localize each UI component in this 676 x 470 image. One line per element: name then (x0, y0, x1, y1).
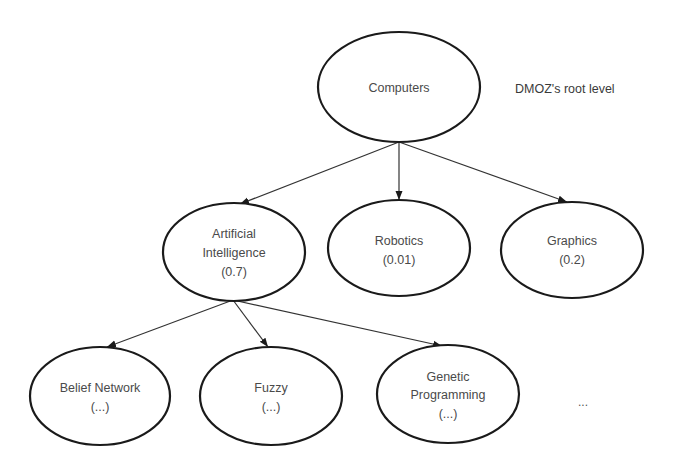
node-robotics: Robotics (0.01) (328, 200, 470, 296)
edge-ai-genetic-programming (233, 300, 442, 346)
node-artificial-intelligence: Artificial Intelligence (0.7) (163, 203, 305, 301)
node-fuzzy-label: Fuzzy (254, 381, 288, 395)
node-computers: Computers (318, 32, 480, 142)
node-ai-score: (0.7) (221, 265, 247, 279)
node-robotics-ellipse (328, 200, 470, 296)
node-fuzzy-score: (...) (262, 400, 281, 414)
node-fuzzy-ellipse (200, 347, 342, 445)
node-fuzzy: Fuzzy (...) (200, 347, 342, 445)
node-graphics-ellipse (501, 202, 643, 298)
node-genetic-programming-label-line2: Programming (410, 388, 485, 402)
node-graphics-label: Graphics (547, 234, 597, 248)
edge-ai-belief-network (107, 300, 233, 347)
more-siblings-indicator: ... (578, 395, 588, 409)
node-graphics-score: (0.2) (559, 253, 585, 267)
node-robotics-label: Robotics (375, 234, 424, 248)
node-belief-network: Belief Network (...) (30, 347, 170, 445)
node-ai-label-line1: Artificial (212, 227, 256, 241)
node-graphics: Graphics (0.2) (501, 202, 643, 298)
edges-root (240, 142, 567, 204)
node-computers-label: Computers (368, 81, 429, 95)
root-level-annotation: DMOZ's root level (515, 82, 615, 96)
edge-computers-ai (240, 142, 399, 204)
node-ai-label-line2: Intelligence (202, 246, 265, 260)
taxonomy-tree-diagram: Computers DMOZ's root level Artificial I… (0, 0, 676, 470)
node-genetic-programming-label-line1: Genetic (426, 370, 469, 384)
node-belief-network-label: Belief Network (60, 381, 141, 395)
edge-computers-graphics (399, 142, 567, 202)
node-robotics-score: (0.01) (383, 253, 416, 267)
node-belief-network-ellipse (30, 347, 170, 445)
node-belief-network-score: (...) (91, 400, 110, 414)
node-genetic-programming: Genetic Programming (...) (377, 345, 519, 443)
node-genetic-programming-score: (...) (439, 407, 458, 421)
edges-ai (107, 300, 442, 347)
